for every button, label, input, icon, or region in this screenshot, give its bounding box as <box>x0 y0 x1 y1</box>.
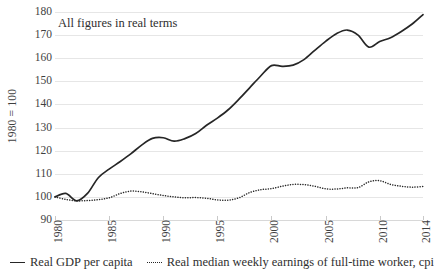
x-axis-tick-label: 2005 <box>324 220 336 243</box>
solid-line-icon <box>10 262 25 263</box>
chart-annotation: All figures in real terms <box>58 16 177 31</box>
y-axis-tick-label: 150 <box>18 76 52 88</box>
y-axis-tick-label: 130 <box>18 122 52 134</box>
x-axis-tick-label: 1980 <box>53 220 65 243</box>
legend-item[interactable]: Real GDP per capita <box>10 256 133 269</box>
x-axis-tick-label: 1985 <box>107 220 119 243</box>
dotted-line-icon <box>147 262 162 263</box>
legend-item[interactable]: Real median weekly earnings of full-time… <box>147 256 434 269</box>
y-axis-tick-label: 170 <box>18 29 52 41</box>
plot-area <box>55 12 423 220</box>
x-axis-tick-label: 1995 <box>216 220 228 243</box>
plot-lines <box>55 12 423 220</box>
legend-item-label: Real GDP per capita <box>30 256 133 269</box>
x-axis-tick-label: 1990 <box>161 220 173 243</box>
y-axis-tick-label: 90 <box>18 214 52 226</box>
x-axis-tick-label: 2014 <box>421 220 433 243</box>
y-axis-tick-label: 120 <box>18 145 52 157</box>
series-line <box>55 181 423 201</box>
x-axis-tick-label: 2000 <box>270 220 282 243</box>
y-axis-tick-label: 100 <box>18 191 52 203</box>
y-axis-tick-label: 110 <box>18 168 52 180</box>
y-axis-tick-label: 160 <box>18 52 52 64</box>
legend-item-label: Real median weekly earnings of full-time… <box>167 256 434 269</box>
y-axis-tick-labels: 18017016015014013012011010090 <box>14 0 52 272</box>
series-line <box>55 15 423 201</box>
y-axis-tick-label: 140 <box>18 99 52 111</box>
chart-legend: Real GDP per capitaReal median weekly ea… <box>10 253 431 272</box>
y-axis-tick-label: 180 <box>18 6 52 18</box>
x-axis-tick-label: 2010 <box>378 220 390 243</box>
x-axis-tick-labels: 19801985199019952000200520102014 <box>55 220 423 254</box>
